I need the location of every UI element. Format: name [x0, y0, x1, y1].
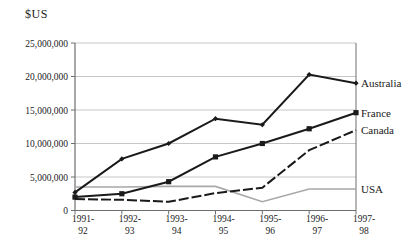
marker-square-france	[166, 179, 171, 184]
y-axis-ticks: 05,000,00010,000,00015,000,00020,000,000…	[25, 39, 75, 217]
series-line-canada	[75, 130, 356, 202]
marker-diamond-australia	[353, 81, 358, 86]
chart-container: $US 05,000,00010,000,00015,000,00020,000…	[0, 0, 418, 247]
series-label-canada: Canada	[361, 124, 394, 136]
series-line-australia	[75, 74, 356, 192]
line-chart: 05,000,00010,000,00015,000,00020,000,000…	[0, 0, 418, 247]
marker-square-france	[72, 195, 77, 200]
y-tick-label: 25,000,000	[25, 39, 68, 49]
x-tick-label-line2: 92	[78, 226, 88, 236]
x-tick-label-line1: 1995-	[259, 214, 281, 224]
y-tick-label: 10,000,000	[25, 139, 68, 149]
x-tick-label-line1: 1994-	[212, 214, 234, 224]
marker-square-france	[353, 110, 358, 115]
x-tick-label-line1: 1991-	[72, 214, 94, 224]
x-tick-label-line1: 1992-	[119, 214, 141, 224]
y-axis-unit-label: $US	[25, 7, 48, 22]
x-tick-label-line2: 97	[312, 226, 322, 236]
x-axis-ticks: 1991-921992-931993-941994-951995-961996-…	[72, 211, 375, 237]
x-tick-label-line2: 94	[172, 226, 182, 236]
series-label-france: France	[361, 107, 391, 119]
y-tick-label: 20,000,000	[25, 72, 68, 82]
y-tick-label: 15,000,000	[25, 106, 68, 116]
marker-square-france	[260, 141, 265, 146]
series-canada: Canada	[75, 124, 394, 202]
marker-square-france	[307, 126, 312, 131]
x-tick-label-line1: 1997-	[353, 214, 375, 224]
x-tick-label-line1: 1993-	[166, 214, 188, 224]
series-label-usa: USA	[361, 183, 383, 195]
series-label-australia: Australia	[361, 77, 401, 89]
x-tick-label-line2: 95	[219, 226, 229, 236]
x-tick-label-line2: 96	[266, 226, 276, 236]
x-tick-label-line2: 93	[125, 226, 135, 236]
y-tick-label: 0	[63, 206, 68, 216]
marker-square-france	[119, 191, 124, 196]
x-tick-label-line2: 98	[359, 226, 369, 236]
y-tick-label: 5,000,000	[30, 173, 68, 183]
marker-square-france	[213, 154, 218, 159]
x-tick-label-line1: 1996-	[306, 214, 328, 224]
